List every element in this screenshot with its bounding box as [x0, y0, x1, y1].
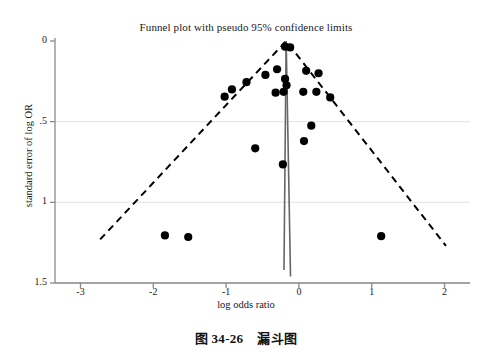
data-point — [261, 71, 269, 79]
data-point-group — [161, 43, 385, 242]
data-point — [279, 160, 287, 168]
data-point — [273, 65, 281, 73]
x-axis-label: log odds ratio — [0, 299, 492, 310]
funnel-plot-canvas — [0, 0, 492, 322]
data-point — [161, 231, 169, 239]
x-tick-label: 1 — [357, 286, 387, 297]
data-point — [184, 233, 192, 241]
data-point — [307, 122, 315, 130]
data-point — [286, 43, 294, 51]
data-point — [302, 67, 310, 75]
data-point — [280, 88, 288, 96]
y-axis-label: standard error of log OR — [23, 56, 34, 256]
data-point — [299, 88, 307, 96]
data-point — [272, 89, 280, 97]
data-point — [242, 78, 250, 86]
y-tick-label: 0 — [21, 34, 47, 45]
y-tick-label: 1.5 — [21, 276, 47, 287]
data-point — [251, 144, 259, 152]
y-tick-label: 1 — [21, 195, 47, 206]
data-point — [326, 93, 334, 101]
figure-caption: 图 34-26漏斗图 — [0, 328, 492, 347]
gridlines — [55, 122, 470, 283]
data-point — [377, 232, 385, 240]
y-tick-label: .5 — [21, 115, 47, 126]
data-point — [228, 85, 236, 93]
figure-number: 图 34-26 — [195, 331, 244, 346]
x-tick-label: 2 — [430, 286, 460, 297]
funnel-plot-figure: Funnel plot with pseudo 95% confidence l… — [0, 0, 492, 359]
axes — [50, 38, 470, 288]
pseudo-95-confidence-limits — [100, 41, 446, 246]
x-tick-label: 0 — [284, 286, 314, 297]
figure-title: 漏斗图 — [257, 331, 297, 346]
data-point — [312, 88, 320, 96]
reference-lines — [100, 41, 446, 277]
x-tick-label: -2 — [138, 286, 168, 297]
data-point — [300, 137, 308, 145]
x-tick-label: -3 — [65, 286, 95, 297]
data-point — [314, 69, 322, 77]
data-point — [221, 93, 229, 101]
x-tick-label: -1 — [211, 286, 241, 297]
